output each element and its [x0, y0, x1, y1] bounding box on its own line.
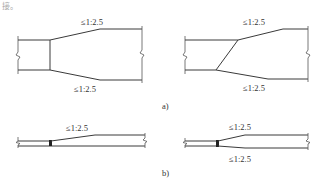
figure-b-left-one-side-taper: ≤1:2.5	[16, 123, 147, 148]
slope-label-top: ≤1:2.5	[243, 17, 265, 27]
slope-label-top: ≤1:2.5	[81, 17, 103, 27]
slope-label-top: ≤1:2.5	[229, 122, 251, 132]
figure-label-b: b)	[162, 168, 169, 178]
slope-label-bottom: ≤1:2.5	[74, 84, 96, 94]
break-line-left	[183, 36, 187, 74]
break-line-right	[306, 133, 310, 150]
break-line-right	[306, 26, 310, 82]
weld-joint-inclined	[216, 40, 238, 70]
figure-b-right-two-side-taper: ≤1:2.5 ≤1:2.5	[183, 122, 310, 164]
slope-label-bottom: ≤1:2.5	[243, 83, 265, 93]
figure-a-right-inclined-joint: ≤1:2.5 ≤1:2.5	[183, 17, 310, 93]
figure-a-left-symmetric-taper: ≤1:2.5 ≤1:2.5	[16, 17, 144, 94]
figure-label-a: a)	[162, 101, 169, 111]
slope-label-bottom: ≤1:2.5	[229, 154, 251, 164]
slope-label-top: ≤1:2.5	[66, 123, 88, 133]
weld-transition-diagram: ≤1:2.5 ≤1:2.5 ≤1:2.5 ≤1:2.5 a) ≤1:2.5	[0, 0, 325, 190]
break-line-left	[16, 36, 20, 74]
break-line-right	[140, 26, 144, 83]
